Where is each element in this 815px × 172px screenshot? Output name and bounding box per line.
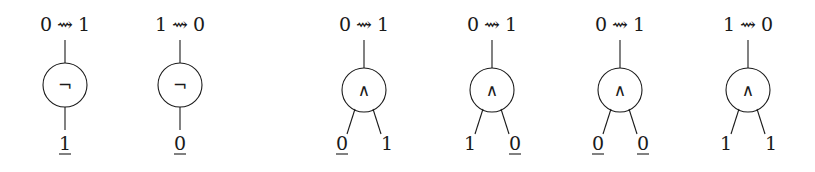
squiggle-arrow-icon: ⇝: [57, 13, 73, 35]
conjunction-icon: ∧: [486, 80, 498, 100]
transition-to: 0: [761, 13, 773, 35]
input-value: 1: [464, 132, 476, 154]
transition-from: 0: [40, 13, 52, 35]
input-wire-right: [629, 109, 637, 134]
conjunction-icon: ∧: [358, 80, 370, 100]
transition-to: 1: [505, 13, 517, 35]
transition-to: 0: [193, 13, 205, 35]
gate-not-2: 1⇝0¬0: [155, 13, 205, 154]
input-wire-left: [475, 109, 483, 134]
input-wire-right: [373, 109, 381, 134]
squiggle-arrow-icon: ⇝: [356, 13, 372, 35]
transition-to: 1: [633, 13, 645, 35]
squiggle-arrow-icon: ⇝: [740, 13, 756, 35]
transition-from: 0: [467, 13, 479, 35]
transition-from: 0: [595, 13, 607, 35]
squiggle-arrow-icon: ⇝: [172, 13, 188, 35]
input-wire-left: [347, 109, 355, 134]
input-wire-left: [603, 109, 611, 134]
gate-and-1: 0⇝1∧01: [336, 13, 393, 154]
negation-icon: ¬: [58, 75, 72, 95]
conjunction-icon: ∧: [742, 80, 754, 100]
input-value: 1: [720, 132, 732, 154]
transition-label: 0⇝1: [339, 13, 389, 35]
input-value-underlined: 0: [592, 132, 604, 154]
transition-label: 0⇝1: [40, 13, 90, 35]
gate-not-1: 0⇝1¬1: [40, 13, 90, 154]
input-value-underlined: 0: [174, 132, 186, 154]
transition-label: 1⇝0: [723, 13, 773, 35]
input-value-underlined: 0: [509, 132, 521, 154]
transition-label: 1⇝0: [155, 13, 205, 35]
logic-gate-diagram: 0⇝1¬11⇝0¬00⇝1∧010⇝1∧100⇝1∧001⇝0∧11: [0, 0, 815, 172]
input-wire-left: [731, 109, 739, 134]
input-value: 1: [381, 132, 393, 154]
input-value: 1: [765, 132, 777, 154]
transition-label: 0⇝1: [467, 13, 517, 35]
gate-and-4: 1⇝0∧11: [720, 13, 777, 154]
transition-to: 1: [377, 13, 389, 35]
conjunction-icon: ∧: [614, 80, 626, 100]
transition-to: 1: [78, 13, 90, 35]
transition-label: 0⇝1: [595, 13, 645, 35]
negation-icon: ¬: [173, 75, 187, 95]
squiggle-arrow-icon: ⇝: [612, 13, 628, 35]
gate-and-3: 0⇝1∧00: [592, 13, 649, 154]
transition-from: 1: [723, 13, 735, 35]
input-value-underlined: 1: [59, 132, 71, 154]
gate-and-2: 0⇝1∧10: [464, 13, 521, 154]
transition-from: 1: [155, 13, 167, 35]
transition-from: 0: [339, 13, 351, 35]
input-wire-right: [501, 109, 509, 134]
input-wire-right: [757, 109, 765, 134]
input-value-underlined: 0: [637, 132, 649, 154]
input-value-underlined: 0: [336, 132, 348, 154]
squiggle-arrow-icon: ⇝: [484, 13, 500, 35]
